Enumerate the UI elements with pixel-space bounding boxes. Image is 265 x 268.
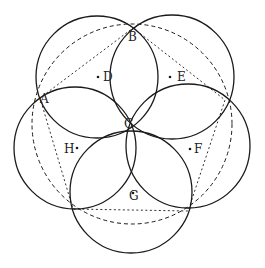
circle-f: [126, 84, 250, 208]
point-labels: ABCDEFGH: [39, 30, 202, 203]
center-dot-e: [169, 76, 172, 79]
label-h: H: [64, 142, 74, 156]
label-a: A: [39, 92, 49, 106]
center-dot-h: [76, 147, 79, 150]
diagram-svg: ABCDEFGH: [0, 0, 265, 268]
label-g: G: [129, 189, 139, 203]
solid-circles: [14, 15, 250, 253]
label-f: F: [194, 142, 202, 156]
center-dot-d: [97, 76, 100, 79]
label-c: C: [124, 117, 133, 131]
label-e: E: [177, 70, 186, 84]
label-b: B: [128, 30, 137, 44]
circle-h: [14, 87, 136, 209]
center-dot-f: [189, 148, 192, 151]
label-d: D: [103, 70, 113, 84]
geometry-diagram: ABCDEFGH: [0, 0, 265, 268]
